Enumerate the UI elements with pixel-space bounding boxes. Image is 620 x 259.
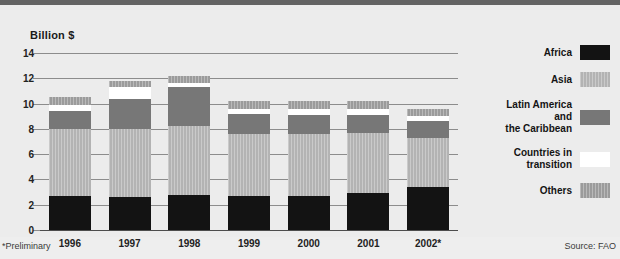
bar-segment-africa (168, 195, 210, 230)
bar-segment-transition (407, 116, 449, 121)
y-tick-label-4: 4 (28, 174, 34, 185)
bar-segment-latam (407, 121, 449, 137)
y-tick-mark-12 (33, 78, 40, 79)
bar-segment-asia (49, 129, 91, 196)
bar-segment-asia (168, 126, 210, 194)
legend-label-latam: Latin Americaandthe Caribbean (492, 99, 580, 135)
legend-label-transition: Countries intransition (492, 147, 580, 171)
y-tick-mark-10 (33, 104, 40, 105)
bar-segment-africa (407, 187, 449, 230)
x-tick-label: 2002* (407, 238, 449, 249)
x-tick-label: 1996 (49, 238, 91, 249)
y-tick-label-6: 6 (28, 149, 34, 160)
chart-page: Billion $ 02468101214 199619971998199920… (0, 0, 620, 259)
legend-swatch-asia (580, 72, 610, 87)
y-tick-mark-14 (33, 53, 40, 54)
legend-swatch-others (580, 183, 610, 198)
legend-item-asia: Asia (492, 72, 610, 87)
legend-label-africa: Africa (492, 47, 580, 59)
bar-segment-transition (168, 83, 210, 87)
legend-item-others: Others (492, 183, 610, 198)
bar-segment-africa (288, 196, 330, 230)
bar-segment-africa (228, 196, 270, 230)
bar-column: 1999 (228, 53, 270, 230)
bar-segment-others (228, 101, 270, 109)
legend-item-africa: Africa (492, 45, 610, 60)
bar-segment-others (168, 76, 210, 84)
footnote-preliminary: *Preliminary (2, 241, 51, 251)
bar-column: 2000 (288, 53, 330, 230)
bar-segment-africa (109, 197, 151, 230)
x-tick-label: 1997 (109, 238, 151, 249)
legend: AfricaAsiaLatin Americaandthe CaribbeanC… (492, 45, 610, 210)
bar-segment-others (109, 81, 151, 87)
plot-area: 02468101214 1996199719981999200020012002… (40, 53, 458, 230)
bar-segment-others (347, 101, 389, 109)
bar-segment-latam (347, 115, 389, 133)
bar-column: 1996 (49, 53, 91, 230)
legend-swatch-transition (580, 152, 610, 167)
legend-swatch-africa (580, 45, 610, 60)
bar-segment-latam (109, 99, 151, 129)
footnote-source: Source: FAO (564, 241, 616, 251)
x-tick-label: 1998 (168, 238, 210, 249)
bar-segment-transition (49, 105, 91, 111)
bar-segment-latam (168, 87, 210, 126)
y-tick-label-14: 14 (23, 48, 34, 59)
bar-column: 2001 (347, 53, 389, 230)
bar-column: 1997 (109, 53, 151, 230)
y-axis-title: Billion $ (30, 29, 75, 41)
bar-segment-africa (49, 196, 91, 230)
figure-area: Billion $ 02468101214 199619971998199920… (0, 5, 620, 237)
bar-segment-asia (407, 138, 449, 187)
bar-segment-asia (109, 129, 151, 197)
plot-inner: 02468101214 1996199719981999200020012002… (40, 53, 458, 230)
bar-group: 1996199719981999200020012002* (40, 53, 458, 230)
bar-segment-latam (228, 114, 270, 134)
bar-column: 1998 (168, 53, 210, 230)
y-tick-label-8: 8 (28, 123, 34, 134)
bar-segment-others (407, 109, 449, 117)
bar-segment-latam (49, 111, 91, 129)
y-tick-label-12: 12 (23, 73, 34, 84)
bar-segment-africa (347, 193, 389, 230)
y-tick-label-10: 10 (23, 98, 34, 109)
bar-segment-transition (109, 87, 151, 98)
legend-item-transition: Countries intransition (492, 147, 610, 171)
bar-segment-transition (288, 109, 330, 115)
legend-item-latam: Latin Americaandthe Caribbean (492, 99, 610, 135)
bar-segment-asia (347, 133, 389, 194)
bar-segment-transition (228, 109, 270, 114)
legend-label-others: Others (492, 185, 580, 197)
x-tick-label: 2000 (288, 238, 330, 249)
legend-swatch-latam (580, 110, 610, 125)
y-tick-label-0: 0 (28, 225, 34, 236)
bar-column: 2002* (407, 53, 449, 230)
bar-segment-others (49, 97, 91, 105)
bar-segment-asia (228, 134, 270, 196)
bar-segment-others (288, 101, 330, 109)
bar-segment-transition (347, 109, 389, 115)
x-tick-label: 2001 (347, 238, 389, 249)
bar-segment-asia (288, 134, 330, 196)
legend-label-asia: Asia (492, 74, 580, 86)
bar-segment-latam (288, 115, 330, 134)
x-tick-label: 1999 (228, 238, 270, 249)
y-tick-label-2: 2 (28, 199, 34, 210)
gridline-0 (40, 230, 458, 231)
